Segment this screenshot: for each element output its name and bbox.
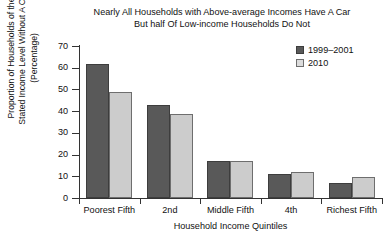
x-axis-category-label: Richest Fifth xyxy=(307,205,392,216)
x-axis-title: Household Income Quintiles xyxy=(79,221,382,232)
legend-item-label: 1999–2001 xyxy=(308,46,354,55)
legend-swatch-icon xyxy=(296,46,304,54)
y-axis-tick xyxy=(72,155,79,156)
y-axis-tick-label: 10 xyxy=(14,172,68,181)
y-axis-tick-label: 0 xyxy=(14,194,68,203)
bar-group xyxy=(140,46,201,198)
bar xyxy=(86,64,109,198)
y-axis-tick-label: 70 xyxy=(14,42,68,51)
x-axis-tick xyxy=(382,198,383,204)
legend-item: 1999–2001 xyxy=(296,44,354,56)
y-axis-tick-label: 50 xyxy=(14,85,68,94)
bar xyxy=(352,177,375,198)
bar xyxy=(329,183,352,198)
legend-swatch-icon xyxy=(296,59,304,67)
y-axis-tick xyxy=(72,46,79,47)
y-axis-tick xyxy=(72,198,79,199)
x-axis-tick xyxy=(321,198,322,204)
y-axis-tick xyxy=(72,133,79,134)
bar xyxy=(207,161,230,198)
bar xyxy=(268,174,291,198)
legend-item-label: 2010 xyxy=(308,59,328,68)
y-axis-tick xyxy=(72,176,79,177)
y-axis-tick-label: 30 xyxy=(14,128,68,137)
bar-group xyxy=(200,46,261,198)
y-axis-tick-label: 60 xyxy=(14,63,68,72)
y-axis-tick-label: 40 xyxy=(14,107,68,116)
x-axis-tick xyxy=(140,198,141,204)
bar xyxy=(147,105,170,198)
y-axis-tick-label: 20 xyxy=(14,150,68,159)
bar xyxy=(291,172,314,198)
bar xyxy=(170,114,193,198)
bar xyxy=(109,92,132,198)
y-axis-tick xyxy=(72,111,79,112)
x-axis-tick xyxy=(79,198,80,204)
x-axis-tick xyxy=(200,198,201,204)
x-axis-tick xyxy=(261,198,262,204)
bar-group xyxy=(79,46,140,198)
y-axis-tick xyxy=(72,89,79,90)
chart-figure: Nearly All Households with Above-average… xyxy=(0,0,392,241)
chart-legend: 1999–20012010 xyxy=(296,44,354,70)
y-axis-tick xyxy=(72,68,79,69)
bar xyxy=(230,161,253,198)
legend-item: 2010 xyxy=(296,57,354,69)
